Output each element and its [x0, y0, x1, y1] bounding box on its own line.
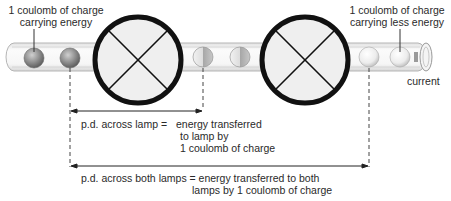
label-charge-energy-line1: 1 coulomb of charge: [8, 4, 104, 16]
label-pd-both-line1: p.d. across both lamps = energy transfer…: [81, 172, 332, 184]
charge-half-2: [230, 47, 250, 67]
label-pd-both-line2: lamps by 1 coulomb of charge: [81, 184, 332, 196]
label-current: current: [407, 75, 440, 87]
label-charge-less-line2: carrying less energy: [343, 16, 451, 28]
lamp-1: [95, 17, 181, 103]
pd-lamp-arrow: [71, 109, 202, 113]
label-charge-less-energy: 1 coulomb of charge carrying less energy: [343, 4, 451, 28]
label-charge-energy: 1 coulomb of charge carrying energy: [8, 4, 104, 28]
label-charge-energy-line2: carrying energy: [8, 16, 104, 28]
label-pd-both: p.d. across both lamps = energy transfer…: [81, 172, 332, 196]
lamp-2: [262, 17, 348, 103]
current-arrow-icon: [414, 52, 418, 62]
label-pd-lamp-rhs-line1: energy transferred: [176, 118, 275, 130]
label-charge-less-line1: 1 coulomb of charge: [343, 4, 451, 16]
label-pd-lamp-lhs: p.d. across lamp =: [81, 118, 167, 130]
charge-full-2: [60, 48, 80, 68]
label-pd-lamp-rhs: energy transferred to lamp by 1 coulomb …: [176, 118, 275, 154]
label-pd-lamp-rhs-line3: 1 coulomb of charge: [176, 142, 275, 154]
label-pd-lamp-rhs-line2: to lamp by: [176, 130, 275, 142]
pd-both-arrow: [71, 164, 368, 168]
circuit-diagram: [0, 0, 451, 201]
charge-half-1: [193, 47, 213, 67]
charge-low-1: [359, 47, 379, 67]
